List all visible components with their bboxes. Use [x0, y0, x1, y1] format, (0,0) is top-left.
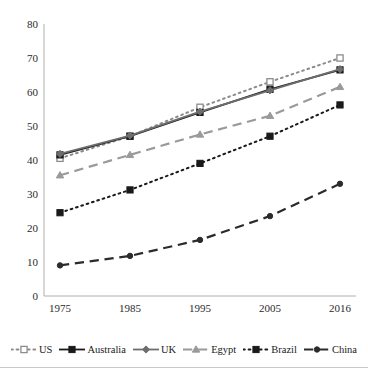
data-point-marker	[337, 102, 343, 108]
legend-key-icon	[133, 345, 159, 354]
data-point-marker	[127, 253, 132, 258]
y-axis-tick-labels: 01020304050607080	[27, 18, 39, 302]
data-point-marker	[267, 213, 272, 218]
legend-item-label: China	[332, 344, 357, 355]
data-point-marker	[127, 187, 133, 193]
legend-key-icon	[183, 345, 209, 354]
chart-legend: USAustraliaUKEgyptBrazilChina	[0, 339, 368, 359]
chart-figure: 01020304050607080 19751985199520052016 U…	[0, 0, 368, 377]
y-tick-label: 10	[27, 256, 39, 268]
legend-item-label: US	[39, 344, 52, 355]
series-line	[60, 105, 340, 213]
data-point-marker	[337, 181, 342, 186]
y-tick-label: 40	[27, 154, 39, 166]
y-tick-label: 30	[27, 188, 39, 200]
series-layer	[56, 55, 343, 268]
legend-item-egypt[interactable]: Egypt	[183, 344, 236, 355]
data-point-marker	[337, 55, 343, 61]
data-point-marker	[142, 345, 149, 352]
legend-item-us[interactable]: US	[11, 344, 52, 355]
x-axis-tick-labels: 19751985199520052016	[49, 302, 352, 314]
plot-area: 01020304050607080 19751985199520052016	[0, 0, 368, 340]
legend-item-brazil[interactable]: Brazil	[243, 344, 297, 355]
data-point-marker	[197, 160, 203, 166]
y-tick-label: 50	[27, 120, 39, 132]
legend-item-australia[interactable]: Australia	[59, 344, 126, 355]
x-tick-label: 1985	[119, 302, 142, 314]
legend-key-icon	[243, 345, 269, 354]
legend-key-icon	[59, 345, 85, 354]
legend-item-label: Brazil	[271, 344, 297, 355]
legend-item-china[interactable]: China	[304, 344, 357, 355]
data-point-marker	[314, 346, 319, 351]
data-point-marker	[21, 346, 27, 352]
series-line	[60, 184, 340, 266]
series-uk	[56, 66, 343, 158]
line-chart-svg: 01020304050607080 19751985199520052016	[0, 0, 368, 340]
data-point-marker	[196, 131, 203, 137]
legend-key-icon	[11, 345, 37, 354]
data-point-marker	[197, 237, 202, 242]
bottom-divider	[0, 367, 368, 368]
data-point-marker	[253, 346, 259, 352]
data-point-marker	[266, 112, 273, 118]
data-point-marker	[267, 133, 273, 139]
x-tick-label: 2016	[329, 302, 352, 314]
legend-key-icon	[304, 345, 330, 354]
y-tick-label: 70	[27, 52, 39, 64]
y-tick-label: 80	[27, 18, 39, 30]
legend-item-label: Egypt	[211, 344, 236, 355]
series-brazil	[57, 102, 343, 216]
y-tick-label: 60	[27, 86, 39, 98]
x-tick-label: 1975	[49, 302, 72, 314]
legend-item-label: Australia	[87, 344, 126, 355]
data-point-marker	[267, 79, 273, 85]
legend-item-uk[interactable]: UK	[133, 344, 176, 355]
x-tick-label: 1995	[189, 302, 212, 314]
series-china	[57, 181, 342, 268]
y-tick-label: 20	[27, 222, 39, 234]
x-tick-label: 2005	[259, 302, 282, 314]
data-point-marker	[69, 346, 75, 352]
data-point-marker	[57, 263, 62, 268]
legend-item-label: UK	[161, 344, 176, 355]
data-point-marker	[336, 83, 343, 89]
data-point-marker	[57, 210, 63, 216]
y-tick-label: 0	[33, 290, 39, 302]
